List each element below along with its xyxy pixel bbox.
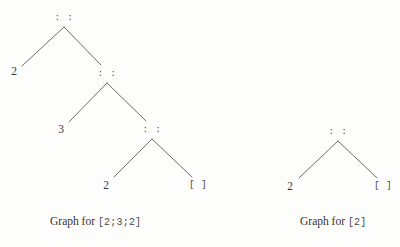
tree-node-value: 2 [11, 66, 17, 78]
tree-edge [22, 27, 64, 66]
tree-edge [64, 27, 101, 65]
tree-edge [152, 139, 192, 177]
figure-caption: Graph for [2] [300, 216, 367, 228]
figure-canvas: : :2: :3: :2[ ]: :2[ ] Graph for [2;3;2]… [0, 0, 400, 247]
caption-label: Graph for [50, 215, 98, 227]
figure-caption: Graph for [2;3;2] [50, 216, 141, 228]
tree-edge [107, 83, 146, 121]
tree-node-nil: [ ] [374, 181, 392, 191]
tree-node-cons: : : [143, 125, 162, 135]
tree-node-value: 2 [287, 181, 293, 193]
tree-node-cons: : : [55, 13, 74, 23]
tree-node-value: 2 [103, 180, 109, 192]
caption-label: Graph for [300, 215, 348, 227]
tree-edge [69, 83, 107, 122]
tree-edge [299, 141, 338, 178]
tree-edge [338, 141, 377, 178]
tree-node-cons: : : [98, 69, 117, 79]
tree-edge [114, 139, 152, 177]
tree-node-cons: : : [329, 127, 348, 137]
tree-node-value: 3 [58, 124, 64, 136]
caption-list-literal: [2;3;2] [98, 217, 141, 228]
caption-list-literal: [2] [348, 217, 367, 228]
tree-node-nil: [ ] [189, 180, 207, 190]
